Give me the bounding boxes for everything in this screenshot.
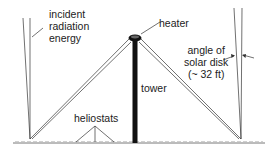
incident-label-line3: energy bbox=[49, 32, 89, 44]
incident-label-line1: incident bbox=[49, 8, 89, 20]
tower-label: tower bbox=[141, 82, 167, 94]
incident-rays-left bbox=[23, 18, 30, 139]
heliostats-label: heliostats bbox=[74, 112, 118, 124]
tower bbox=[133, 40, 138, 143]
incident-rays-right bbox=[234, 8, 242, 139]
solar-tower-diagram bbox=[0, 0, 270, 149]
incident-label: incident radiation energy bbox=[49, 8, 89, 44]
angle-label: angle of solar disk (~ 32 ft) bbox=[184, 44, 228, 80]
angle-label-line2: solar disk bbox=[184, 56, 228, 68]
heater-label: heater bbox=[159, 17, 189, 29]
ground bbox=[13, 142, 265, 144]
angle-label-line1: angle of bbox=[184, 44, 228, 56]
angle-label-line3: (~ 32 ft) bbox=[184, 68, 228, 80]
incident-label-line2: radiation bbox=[49, 20, 89, 32]
